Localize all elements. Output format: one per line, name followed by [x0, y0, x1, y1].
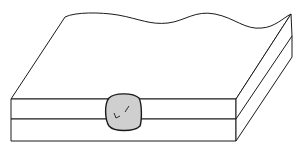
weld-nugget — [106, 94, 142, 131]
weld-diagram: Spot weld nugget between two lap-joined … — [0, 0, 305, 152]
weld-drawing — [0, 0, 305, 152]
